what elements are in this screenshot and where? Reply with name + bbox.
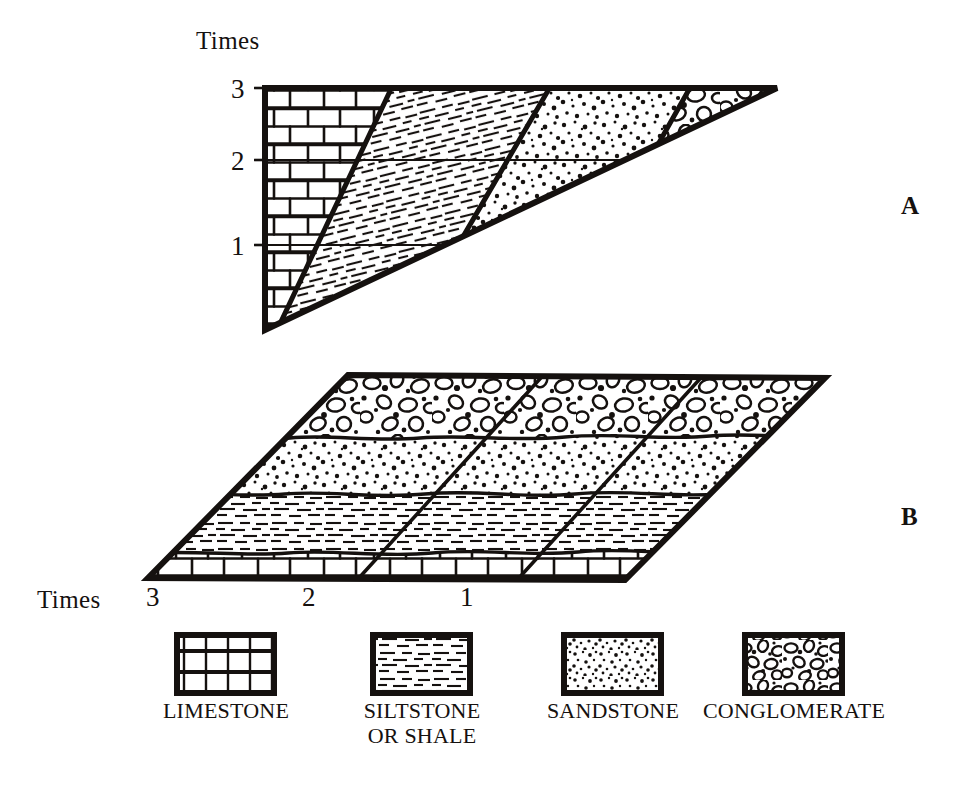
legend-swatch-conglomerate: [745, 635, 842, 693]
band-sandstone-b: [120, 435, 860, 497]
panel-b-map-view: [120, 360, 860, 610]
panel-a-cross-section: [250, 70, 800, 345]
legend-swatch-limestone: [177, 635, 274, 693]
panel-a-tick-1: 1: [231, 231, 245, 262]
legend-label-conglomerate-line1: CONGLOMERATE: [690, 699, 898, 724]
legend-label-siltstone-line1: SILTSTONE: [331, 699, 513, 724]
panel-b-tick-1: 1: [460, 582, 474, 613]
panel-a-times-label: Times: [196, 27, 260, 55]
legend-label-siltstone: SILTSTONE OR SHALE: [331, 699, 513, 748]
band-siltstone-b: [120, 492, 860, 554]
facies-diagram-svg: [0, 0, 973, 798]
band-conglomerate-b: [120, 360, 860, 440]
panel-b-times-label: Times: [37, 586, 101, 614]
legend-label-sandstone-line1: SANDSTONE: [522, 699, 704, 724]
legend-label-sandstone: SANDSTONE: [522, 699, 704, 724]
legend-swatch-sandstone: [564, 635, 661, 693]
panel-b-tick-3: 3: [146, 582, 160, 613]
legend-swatches: [177, 635, 842, 693]
legend-label-limestone-line1: LIMESTONE: [135, 699, 317, 724]
figure-canvas: Times 3 2 1 A Times 3 2 1 B LIMESTONE SI…: [0, 0, 973, 798]
panel-a-tick-2: 2: [231, 146, 245, 177]
legend-label-conglomerate: CONGLOMERATE: [690, 699, 898, 724]
panel-b-facies-bands: [120, 360, 860, 610]
panel-b-letter: B: [901, 503, 918, 531]
panel-a-tick-3: 3: [231, 74, 245, 105]
panel-b-tick-2: 2: [302, 582, 316, 613]
legend-label-siltstone-line2: OR SHALE: [331, 724, 513, 749]
legend-label-limestone: LIMESTONE: [135, 699, 317, 724]
panel-a-letter: A: [901, 192, 919, 220]
legend-swatch-siltstone: [373, 635, 470, 693]
